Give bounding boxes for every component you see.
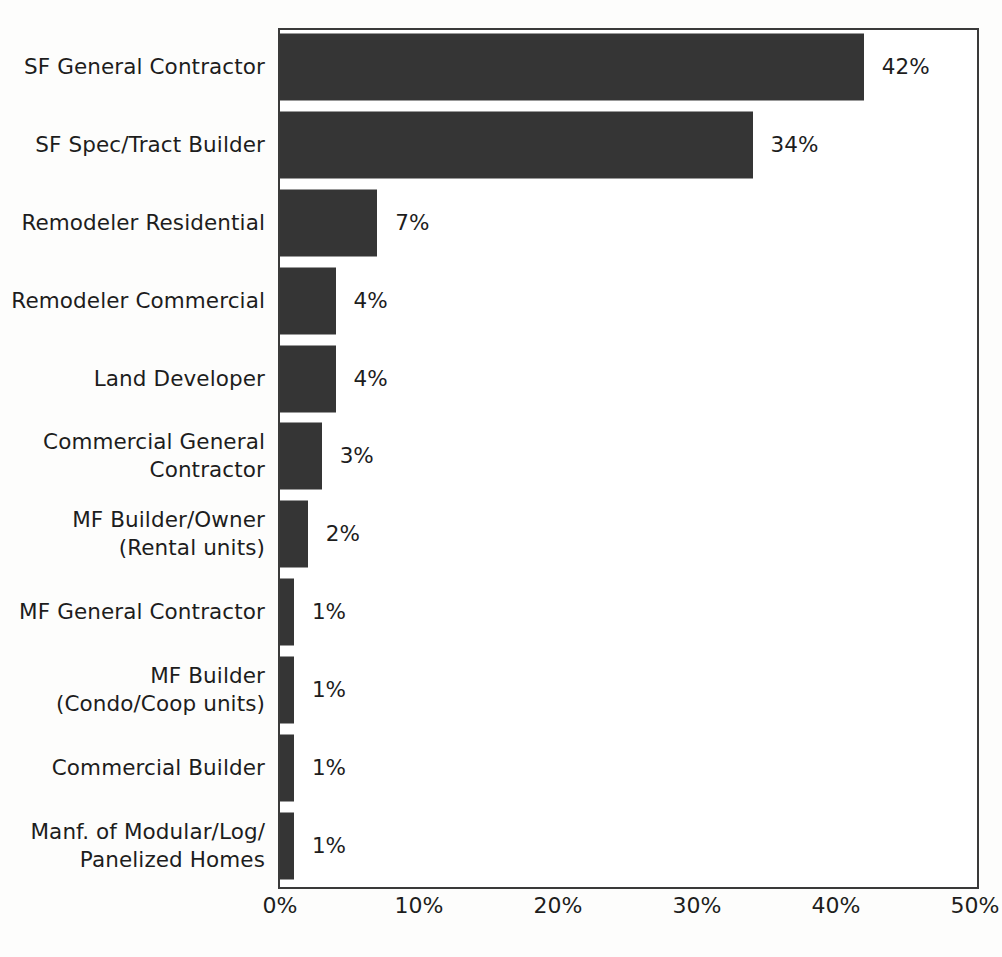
bar <box>280 735 294 802</box>
category-label: MF Builder (Condo/Coop units) <box>0 663 265 718</box>
x-axis-tick-labels: 0%10%20%30%40%50% <box>0 893 1002 938</box>
x-tick-label: 0% <box>263 893 298 918</box>
bar <box>280 423 322 490</box>
x-tick-label: 30% <box>673 893 722 918</box>
x-tick-label: 50% <box>951 893 1000 918</box>
bar <box>280 33 864 100</box>
category-label: Remodeler Commercial <box>0 287 265 315</box>
bar <box>280 579 294 646</box>
category-label: SF Spec/Tract Builder <box>0 131 265 159</box>
bar-row: Commercial Builder1% <box>0 729 1002 807</box>
bar-row: Commercial General Contractor3% <box>0 418 1002 496</box>
bar <box>280 189 377 256</box>
bar <box>280 813 294 880</box>
bar-value-label: 4% <box>354 290 388 312</box>
bar-value-label: 7% <box>395 212 429 234</box>
category-label: Land Developer <box>0 365 265 393</box>
bar-value-label: 2% <box>326 524 360 546</box>
bar-value-label: 1% <box>312 835 346 857</box>
category-label: Remodeler Residential <box>0 209 265 237</box>
bar-row: SF General Contractor42% <box>0 28 1002 106</box>
bar <box>280 345 336 412</box>
bar-value-label: 3% <box>340 446 374 468</box>
bar-value-label: 1% <box>312 679 346 701</box>
category-label: SF General Contractor <box>0 53 265 81</box>
category-label: MF Builder/Owner (Rental units) <box>0 507 265 562</box>
category-label: Commercial General Contractor <box>0 429 265 484</box>
x-tick-label: 20% <box>534 893 583 918</box>
bar <box>280 501 308 568</box>
bar-rows: SF General Contractor42%SF Spec/Tract Bu… <box>0 28 1002 885</box>
bar-row: Remodeler Residential7% <box>0 184 1002 262</box>
category-label: MF General Contractor <box>0 599 265 627</box>
bar-row: MF General Contractor1% <box>0 573 1002 651</box>
bar-value-label: 42% <box>882 56 930 78</box>
bar-row: Remodeler Commercial4% <box>0 262 1002 340</box>
bar <box>280 111 753 178</box>
bar-value-label: 1% <box>312 757 346 779</box>
bar-row: SF Spec/Tract Builder34% <box>0 106 1002 184</box>
x-tick-label: 10% <box>395 893 444 918</box>
bar-row: Manf. of Modular/Log/ Panelized Homes1% <box>0 807 1002 885</box>
bar-row: MF Builder (Condo/Coop units)1% <box>0 651 1002 729</box>
bar <box>280 657 294 724</box>
bar <box>280 267 336 334</box>
bar-chart: SF General Contractor42%SF Spec/Tract Bu… <box>0 0 1002 957</box>
bar-value-label: 4% <box>354 368 388 390</box>
x-tick-label: 40% <box>812 893 861 918</box>
bar-row: MF Builder/Owner (Rental units)2% <box>0 495 1002 573</box>
category-label: Commercial Builder <box>0 754 265 782</box>
bar-value-label: 1% <box>312 602 346 624</box>
bar-row: Land Developer4% <box>0 340 1002 418</box>
bar-value-label: 34% <box>771 134 819 156</box>
category-label: Manf. of Modular/Log/ Panelized Homes <box>0 819 265 874</box>
